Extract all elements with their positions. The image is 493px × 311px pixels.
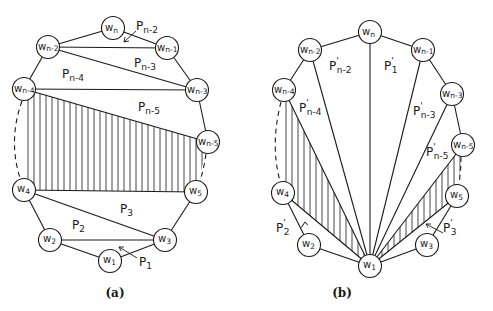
region-label-pn4: Pn-4 (62, 67, 84, 83)
region-label-p2-prime: P'2 (276, 218, 289, 237)
region-label-pn5: Pn-5 (138, 100, 160, 116)
node-w5: w5 (446, 185, 469, 208)
node-wn: wn (102, 17, 125, 40)
node-w2: w2 (39, 229, 62, 252)
diagram-b: P'n-2 P'1 P'n-4 P'n-3 P'n-5 P'2 P'3 wn w… (272, 21, 475, 301)
region-label-pn5-prime: P'n-5 (426, 142, 448, 161)
polygon-decomposition-figure: Pn-2 Pn-3 Pn-4 Pn-5 P3 P2 P1 wn wn-2 wn-… (0, 0, 493, 311)
region-label-pn3: Pn-3 (134, 56, 156, 72)
caption-a: (a) (105, 286, 124, 300)
region-label-p3-prime: P'3 (443, 218, 456, 237)
node-wn-2: wn-2 (37, 36, 60, 59)
node-w1: w1 (359, 255, 382, 278)
node-wn-4: wn-4 (13, 78, 36, 101)
region-label-p1-prime: P'1 (384, 56, 397, 75)
node-w4: w4 (272, 182, 295, 205)
node-wn-4: wn-4 (273, 79, 296, 102)
hatched-region-b-left (280, 90, 364, 270)
node-w2: w2 (298, 234, 321, 257)
node-w4: w4 (13, 179, 36, 202)
node-wn-2: wn-2 (299, 39, 322, 62)
region-label-pn2: Pn-2 (136, 19, 158, 35)
region-label-pn4-prime: P'n-4 (299, 98, 322, 117)
node-wn-5: wn-5 (197, 131, 220, 154)
node-w5: w5 (185, 181, 208, 204)
node-w1: w1 (99, 250, 122, 273)
node-w3: w3 (154, 229, 177, 252)
region-label-p2: P2 (72, 218, 85, 234)
node-wn-3: wn-3 (441, 83, 464, 106)
node-wn-5: wn-5 (452, 134, 475, 157)
region-label-pn3-prime: P'n-3 (413, 101, 435, 120)
diagram-a: Pn-2 Pn-3 Pn-4 Pn-5 P3 P2 P1 wn wn-2 wn-… (13, 17, 220, 301)
caption-b: (b) (332, 286, 352, 300)
node-wn-3: wn-3 (186, 79, 209, 102)
arrow-p2-prime (300, 222, 308, 229)
node-w3: w3 (416, 234, 439, 257)
arrow-p3-prime (426, 224, 443, 233)
region-label-p1: P1 (139, 255, 152, 271)
node-wn-1: wn-1 (156, 37, 179, 60)
node-wn: wn (359, 21, 382, 44)
region-label-p3: P3 (120, 202, 133, 218)
region-label-pn2-prime: P'n-2 (329, 56, 351, 75)
node-wn-1: wn-1 (412, 39, 435, 62)
